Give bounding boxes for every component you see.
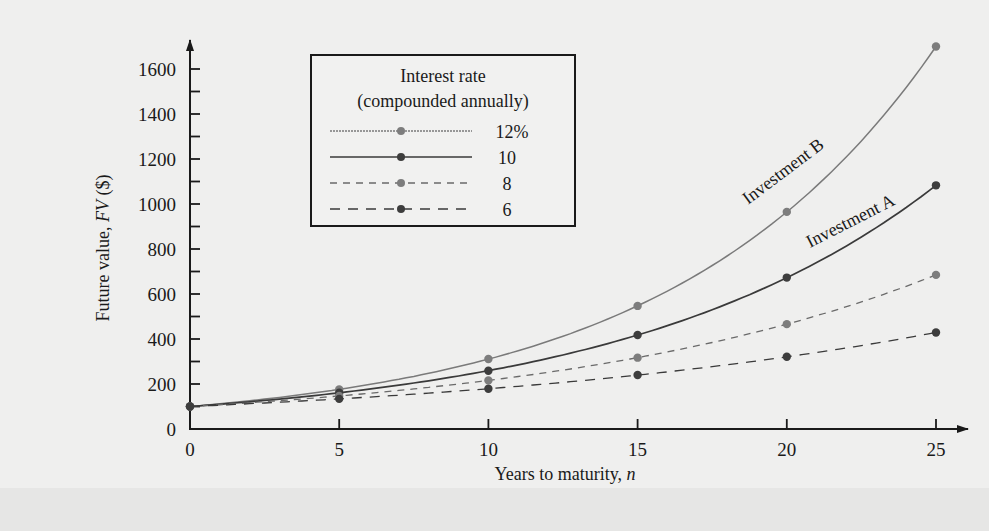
data-point: [484, 367, 492, 375]
y-tick-label: 800: [148, 239, 177, 260]
series-6pct: [186, 328, 940, 410]
axes: [189, 40, 968, 430]
annotation-investment-a: Investment A: [803, 190, 898, 252]
x-tick-label: 0: [185, 439, 195, 460]
future-value-chart: 02004006008001000120014001600 0510152025…: [0, 0, 989, 531]
data-point: [783, 353, 791, 361]
data-point: [484, 355, 492, 363]
data-point: [932, 181, 940, 189]
y-axis-label: Future value, FV ($): [93, 175, 114, 322]
annotation-investment-b: Investment B: [738, 134, 827, 208]
x-tick-label: 25: [927, 439, 946, 460]
x-tick-label: 5: [334, 439, 344, 460]
series-line: [190, 275, 936, 407]
data-point: [186, 402, 194, 410]
data-point: [932, 328, 940, 336]
legend-label-8: 8: [503, 174, 512, 194]
y-tick-label: 400: [148, 329, 177, 350]
y-tick-label: 1600: [138, 59, 176, 80]
data-point: [484, 385, 492, 393]
y-tick-label: 0: [167, 419, 177, 440]
data-point: [633, 302, 641, 310]
legend: Interest rate (compounded annually) 12% …: [311, 55, 575, 226]
y-tick-label: 600: [148, 284, 177, 305]
x-axis-label: Years to maturity, n: [495, 464, 636, 484]
y-tick-label: 200: [148, 374, 177, 395]
x-axis-ticks: 0510152025: [185, 419, 945, 460]
data-point: [335, 395, 343, 403]
y-tick-label: 1000: [138, 194, 176, 215]
data-point: [484, 376, 492, 384]
data-point: [932, 271, 940, 279]
series-8pct: [186, 271, 940, 411]
data-point: [932, 42, 940, 50]
legend-label-12: 12%: [496, 122, 529, 142]
data-point: [783, 320, 791, 328]
data-point: [783, 208, 791, 216]
legend-title: Interest rate: [400, 66, 485, 86]
x-tick-label: 20: [777, 439, 796, 460]
series-line: [190, 333, 936, 407]
y-tick-label: 1400: [138, 104, 176, 125]
data-point: [633, 371, 641, 379]
legend-label-6: 6: [503, 200, 512, 220]
data-point: [783, 273, 791, 281]
y-tick-label: 1200: [138, 149, 176, 170]
data-point: [633, 331, 641, 339]
legend-label-10: 10: [498, 148, 516, 168]
x-tick-label: 10: [479, 439, 498, 460]
data-point: [633, 353, 641, 361]
x-tick-label: 15: [628, 439, 647, 460]
legend-subtitle: (compounded annually): [357, 91, 528, 112]
